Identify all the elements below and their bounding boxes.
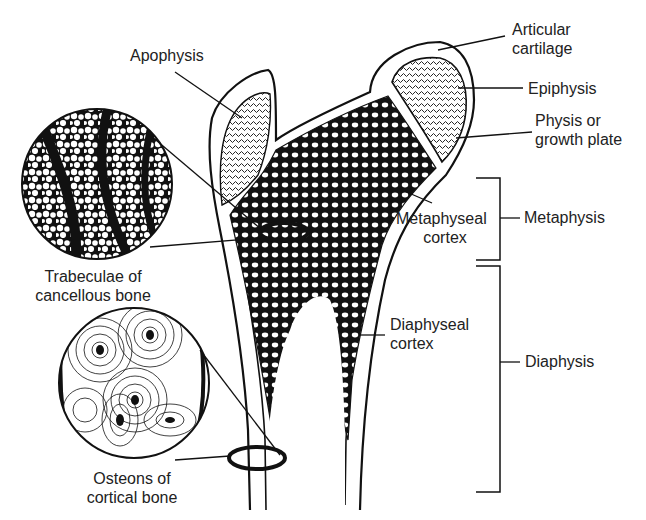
label-physis-line2: growth plate [535, 130, 622, 149]
label-diaphyseal-cortex-line2: cortex [390, 334, 434, 353]
leader-apophysis [175, 72, 242, 118]
label-articular-cartilage-line1: Articular [512, 20, 571, 39]
trabeculae-inset [20, 100, 180, 270]
label-diaphysis: Diaphysis [525, 352, 594, 371]
label-trabeculae-line1: Trabeculae of [18, 267, 168, 286]
label-physis-line1: Physis or [535, 111, 601, 130]
label-apophysis: Apophysis [130, 46, 204, 65]
leader-articular-cartilage [438, 36, 505, 50]
label-osteons-line2: cortical bone [72, 488, 192, 507]
label-trabeculae-line2: cancellous bone [18, 286, 168, 305]
label-articular-cartilage-line2: cartilage [512, 39, 572, 58]
label-metaphyseal-cortex-line1: Metaphyseal [396, 209, 487, 228]
diaphysis-bracket [476, 266, 500, 492]
label-metaphysis: Metaphysis [524, 208, 605, 227]
label-epiphysis: Epiphysis [528, 79, 596, 98]
osteons-inset [55, 303, 215, 465]
label-osteons-line1: Osteons of [72, 469, 192, 488]
leader-osteons-bottom [175, 456, 230, 460]
label-metaphyseal-cortex-line2: cortex [396, 228, 494, 247]
label-diaphyseal-cortex-line1: Diaphyseal [390, 315, 469, 334]
femur-diagram: Apophysis Articular cartilage Epiphysis … [0, 0, 646, 520]
